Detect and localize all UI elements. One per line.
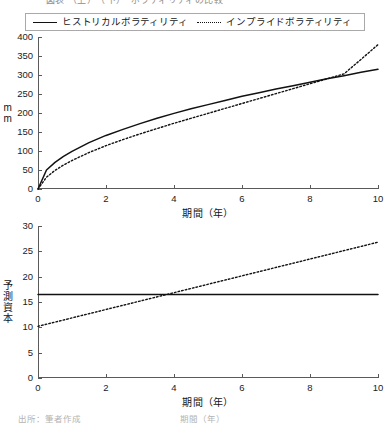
figure-bottom-caption: 出所：筆者作成 期間（年）	[18, 414, 338, 423]
legend-label-implied: インプライドボラティリティ	[226, 17, 351, 27]
legend-entry-historical: ヒストリカルボラティリティ	[33, 17, 187, 27]
x-axis-title-bottom: 期間（年）	[138, 397, 278, 409]
plot-lines-top	[0, 33, 384, 208]
chart-panel-top: 0501001502002503003504000246810 mm 期間（年）	[0, 33, 384, 208]
series-line	[38, 242, 378, 326]
series-line	[38, 45, 378, 189]
legend-entry-implied: インプライドボラティリティ	[197, 17, 351, 27]
legend-label-historical: ヒストリカルボラティリティ	[62, 17, 187, 27]
legend-line-dotted-icon	[197, 22, 221, 23]
figure-top-caption: 図表 （上） （下） ボラティリティの比較	[46, 0, 346, 6]
chart-panel-bottom: 0510152025300246810 予測資本 期間（年）	[0, 222, 384, 422]
y-axis-title-bottom: 予測資本	[2, 280, 14, 324]
series-line	[38, 69, 378, 189]
legend-line-solid-icon	[33, 22, 57, 23]
chart-legend: ヒストリカルボラティリティ インプライドボラティリティ	[25, 13, 365, 31]
y-axis-title-top: mm	[2, 102, 14, 124]
x-axis-title-top: 期間（年）	[138, 208, 278, 220]
plot-lines-bottom	[0, 222, 384, 422]
